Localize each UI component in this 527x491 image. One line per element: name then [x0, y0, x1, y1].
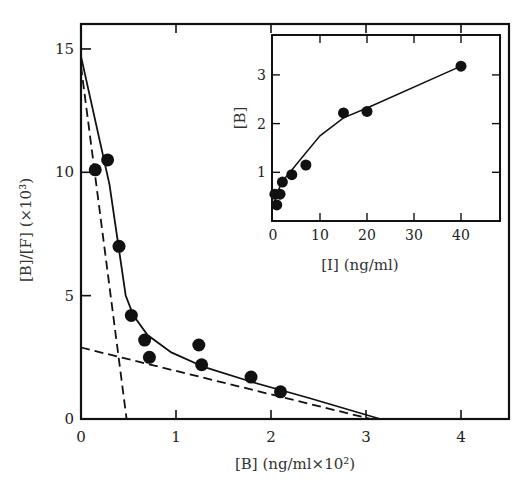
x-tick-label: 3	[361, 428, 371, 446]
y-tick-label: 10	[55, 163, 74, 181]
data-point	[101, 153, 114, 166]
main-x-axis-label: [B] (ng/ml×10²)	[235, 455, 355, 473]
main-y-axis-label: [B]/[F] (×10³)	[17, 178, 35, 282]
scatchard-chart: 01234051015 [B] (ng/ml×10²) [B]/[F] (×10…	[0, 0, 527, 491]
inset-x-tick-label: 10	[311, 227, 329, 243]
x-tick-label: 0	[76, 428, 86, 446]
data-point	[195, 358, 208, 371]
inset-data-point	[275, 189, 286, 200]
inset-x-tick-label: 40	[452, 227, 470, 243]
inset-x-tick-label: 30	[405, 227, 423, 243]
inset-data-point	[277, 177, 288, 188]
inset-x-tick-label: 0	[269, 227, 278, 243]
data-point	[125, 309, 138, 322]
inset-x-tick-label: 20	[358, 227, 376, 243]
inset-y-tick-label: 2	[257, 116, 266, 132]
y-tick-label: 0	[64, 410, 74, 428]
data-point	[143, 351, 156, 364]
data-point	[138, 334, 151, 347]
inset-data-point	[362, 106, 373, 117]
inset-data-point	[300, 159, 311, 170]
y-tick-label: 15	[55, 40, 74, 58]
inset-background	[272, 35, 500, 221]
inset-data-point	[456, 61, 467, 72]
data-point	[274, 385, 287, 398]
inset-y-axis-label: [B]	[231, 107, 249, 130]
x-tick-label: 4	[456, 428, 466, 446]
data-point	[192, 338, 205, 351]
data-point	[245, 371, 258, 384]
x-tick-label: 1	[171, 428, 181, 446]
data-point	[89, 163, 102, 176]
inset-y-tick-label: 1	[257, 164, 266, 180]
inset-data-point	[271, 199, 282, 210]
inset-data-point	[286, 169, 297, 180]
y-tick-label: 5	[64, 287, 74, 305]
data-point	[113, 240, 126, 253]
x-tick-label: 2	[266, 428, 276, 446]
inset-data-point	[338, 107, 349, 118]
inset-x-axis-label: [I] (ng/ml)	[321, 256, 398, 274]
inset-y-tick-label: 3	[257, 67, 266, 83]
